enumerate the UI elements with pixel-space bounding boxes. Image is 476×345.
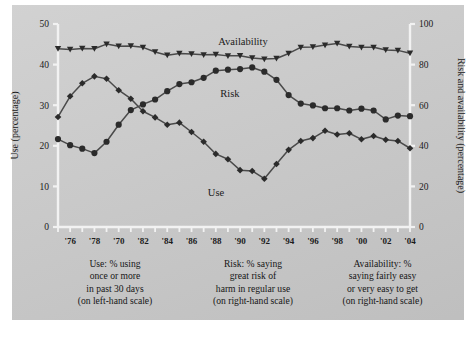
series-marker-risk	[395, 112, 401, 118]
right-axis-title: Risk and availability (percentage)	[455, 58, 467, 193]
series-marker-risk	[237, 66, 243, 72]
series-marker-risk	[261, 69, 267, 75]
series-marker-risk	[225, 67, 231, 73]
right-axis-tick-label: 20	[419, 182, 429, 192]
caption-use-line-3: in past 30 days	[40, 283, 190, 295]
series-marker-use	[55, 114, 62, 121]
series-marker-risk	[322, 105, 328, 111]
caption-availability-line-3: or very easy to get	[305, 283, 460, 295]
series-marker-risk	[116, 122, 122, 128]
series-marker-use	[334, 131, 341, 138]
x-axis-tick-label: '88	[210, 236, 222, 246]
series-line-risk	[58, 67, 410, 153]
series-marker-use	[395, 138, 402, 145]
series-marker-risk	[67, 142, 73, 148]
series-marker-use	[370, 133, 377, 140]
series-marker-use	[382, 136, 389, 143]
left-axis-tick-label: 20	[40, 141, 50, 151]
series-marker-risk	[55, 136, 61, 142]
series-marker-risk	[370, 107, 376, 113]
series-marker-risk	[188, 79, 194, 85]
x-axis-tick-label: '92	[259, 236, 271, 246]
left-axis-tick-label: 40	[40, 60, 50, 70]
caption-use-line-2: once or more	[40, 270, 190, 282]
caption-availability-line-2: saying fairly easy	[305, 270, 460, 282]
caption-availability-line-4: (on right-hand scale)	[305, 295, 460, 307]
series-marker-risk	[201, 75, 207, 81]
series-marker-risk	[79, 146, 85, 152]
caption-use-line-1: Use: % using	[40, 258, 190, 270]
x-axis-tick-label: '84	[161, 236, 173, 246]
caption-availability: Availability: % saying fairly easy or ve…	[305, 258, 460, 308]
series-marker-risk	[358, 106, 364, 112]
series-label-availability: Availability	[218, 36, 268, 47]
series-marker-risk	[152, 96, 158, 102]
x-axis-tick-label: '78	[89, 236, 101, 246]
series-marker-risk	[128, 107, 134, 113]
series-marker-risk	[103, 139, 109, 145]
x-axis-tick-label: '82	[137, 236, 149, 246]
series-label-use: Use	[208, 187, 225, 198]
x-axis-tick-label: '86	[186, 236, 198, 246]
series-marker-use	[152, 114, 159, 121]
series-marker-risk	[249, 64, 255, 70]
series-marker-risk	[407, 113, 413, 119]
series-marker-use	[346, 130, 353, 137]
series-label-risk: Risk	[220, 88, 240, 99]
series-marker-use	[322, 127, 329, 134]
caption-availability-line-1: Availability: %	[305, 258, 460, 270]
series-marker-risk	[298, 100, 304, 106]
x-axis-tick-label: '04	[404, 236, 416, 246]
series-marker-use	[164, 121, 171, 128]
series-marker-risk	[213, 68, 219, 74]
x-axis-tick-label: '02	[380, 236, 392, 246]
series-marker-risk	[346, 107, 352, 113]
right-axis-tick-label: 100	[419, 19, 434, 29]
x-axis-tick-label: '70	[113, 236, 125, 246]
series-marker-use	[91, 73, 98, 80]
right-axis-tick-label: 80	[419, 60, 429, 70]
series-marker-risk	[91, 150, 97, 156]
x-axis-tick-label: '94	[283, 236, 295, 246]
right-axis-tick-label: 40	[419, 141, 429, 151]
right-axis-tick-label: 0	[419, 222, 424, 232]
left-axis-tick-label: 0	[44, 222, 49, 232]
right-axis-tick-label: 60	[419, 101, 429, 111]
series-marker-use	[358, 136, 365, 143]
left-axis-tick-label: 10	[40, 182, 50, 192]
series-marker-risk	[273, 77, 279, 83]
x-axis-tick-label: '00	[356, 236, 368, 246]
figure-page: 01020304050020406080100'76'78'70'82'84'8…	[0, 0, 476, 345]
series-marker-risk	[286, 92, 292, 98]
series-marker-risk	[164, 88, 170, 94]
x-axis-tick-label: '98	[331, 236, 343, 246]
left-axis-title: Use (percentage)	[9, 91, 21, 159]
series-marker-risk	[310, 102, 316, 108]
caption-use: Use: % using once or more in past 30 day…	[40, 258, 190, 308]
series-marker-risk	[383, 116, 389, 122]
left-axis-tick-label: 50	[40, 19, 50, 29]
x-axis-tick-label: '76	[64, 236, 76, 246]
caption-use-line-4: (on left-hand scale)	[40, 295, 190, 307]
x-axis-tick-label: '96	[307, 236, 319, 246]
series-marker-risk	[176, 81, 182, 87]
left-axis-tick-label: 30	[40, 101, 50, 111]
series-marker-risk	[140, 101, 146, 107]
x-axis-tick-label: '90	[234, 236, 246, 246]
series-marker-risk	[334, 105, 340, 111]
series-marker-use	[310, 135, 317, 142]
